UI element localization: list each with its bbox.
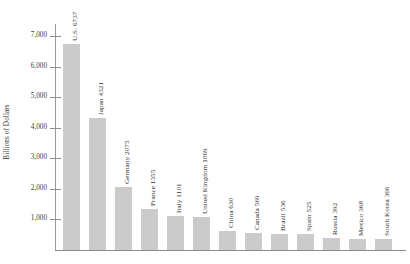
bar[interactable] xyxy=(89,118,106,250)
bar[interactable] xyxy=(115,187,132,250)
bar-group[interactable]: Canada 569 xyxy=(241,24,267,250)
bar[interactable] xyxy=(323,238,340,250)
y-axis-tick-label: 6,000 xyxy=(31,63,47,70)
y-axis-tick-label: 5,000 xyxy=(31,93,47,100)
bar-label: Spain 525 xyxy=(306,201,313,230)
bar-group[interactable]: Spain 525 xyxy=(293,24,319,250)
y-axis-tick-label: 3,000 xyxy=(31,154,47,161)
bar-group[interactable]: Italy 1101 xyxy=(163,24,189,250)
plot-area: U.S. 6737Japan 4321Germany 2075France 13… xyxy=(55,24,406,250)
bar-label: Italy 1101 xyxy=(176,184,183,214)
bar[interactable] xyxy=(141,209,158,250)
bar-label: Brazil 536 xyxy=(280,200,287,231)
bar-group[interactable]: U.S. 6737 xyxy=(59,24,85,250)
bar-group[interactable]: Japan 4321 xyxy=(85,24,111,250)
y-axis-tick-label: 2,000 xyxy=(31,185,47,192)
bar-label: China 630 xyxy=(228,197,235,227)
bar-group[interactable]: France 1355 xyxy=(137,24,163,250)
bar[interactable] xyxy=(193,217,210,250)
bar-group[interactable]: Russia 392 xyxy=(319,24,345,250)
bar[interactable] xyxy=(271,234,288,250)
bar[interactable] xyxy=(63,44,80,250)
bar-group[interactable]: United Kingdom 1069 xyxy=(189,24,215,250)
bar-label: France 1355 xyxy=(150,169,157,205)
bar-label: South Korea 366 xyxy=(384,186,391,236)
bar[interactable] xyxy=(245,233,262,250)
bar[interactable] xyxy=(297,234,314,250)
bar[interactable] xyxy=(349,239,366,250)
bar-label: Russia 392 xyxy=(332,203,339,235)
bar-label: Canada 569 xyxy=(254,195,261,230)
bar-group[interactable]: Germany 2075 xyxy=(111,24,137,250)
bar-group[interactable]: South Korea 366 xyxy=(371,24,397,250)
x-axis-line xyxy=(55,250,406,251)
bar-label: U.S. 6737 xyxy=(72,12,79,41)
bar-group[interactable]: China 630 xyxy=(215,24,241,250)
bar[interactable] xyxy=(167,216,184,250)
bar-group[interactable]: Brazil 536 xyxy=(267,24,293,250)
y-axis-title: Billions of Dollars xyxy=(0,0,14,264)
y-axis-tick-label: 4,000 xyxy=(31,124,47,131)
bar-label: Japan 4321 xyxy=(98,82,105,115)
bar-label: United Kingdom 1069 xyxy=(202,149,209,215)
bar[interactable] xyxy=(219,231,236,250)
y-axis-tick-label: 7,000 xyxy=(31,32,47,39)
bar-label: Germany 2075 xyxy=(124,140,131,184)
y-axis-tick-label: 1,000 xyxy=(31,215,47,222)
bar-group[interactable]: Mexico 368 xyxy=(345,24,371,250)
bar-label: Mexico 368 xyxy=(358,201,365,236)
bar-chart: Billions of Dollars 7,0006,0005,0004,000… xyxy=(0,0,410,264)
bar[interactable] xyxy=(375,239,392,250)
